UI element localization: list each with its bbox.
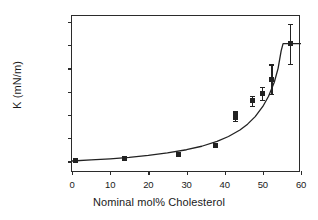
data-point [288, 41, 293, 46]
fit-curve-path [72, 44, 301, 161]
error-bar-cap [233, 121, 238, 122]
x-tick [301, 171, 302, 175]
x-tick-label: 20 [133, 180, 163, 190]
error-bar-cap [269, 94, 274, 95]
error-bar-cap [288, 64, 293, 65]
error-bar-cap [233, 118, 238, 119]
fit-curve [72, 16, 301, 173]
x-axis-title: Nominal mol% Cholesterol [0, 196, 318, 208]
x-tick-label: 40 [210, 180, 240, 190]
error-bar-cap [260, 87, 265, 88]
data-point [213, 143, 218, 148]
error-bar-cap [288, 24, 293, 25]
x-tick-label: 60 [286, 180, 316, 190]
data-point [250, 98, 255, 103]
x-tick-label: 30 [172, 180, 202, 190]
data-point [122, 156, 127, 161]
x-tick-label: 0 [57, 180, 87, 190]
figure: K (mN/m) Nominal mol% Cholesterol 200400… [0, 0, 318, 220]
error-bar-cap [250, 96, 255, 97]
data-point [176, 152, 181, 157]
data-point [73, 158, 78, 163]
error-bar-cap [269, 64, 274, 65]
error-bar-cap [260, 100, 265, 101]
data-point [269, 77, 274, 82]
x-tick-label: 10 [95, 180, 125, 190]
data-point [233, 112, 238, 117]
y-axis-title: K (mN/m) [11, 25, 23, 145]
data-point [260, 91, 265, 96]
error-bar-cap [250, 106, 255, 107]
x-tick-label: 50 [248, 180, 278, 190]
plot-area: 200400600800100012001400 0102030405060 [71, 15, 300, 172]
